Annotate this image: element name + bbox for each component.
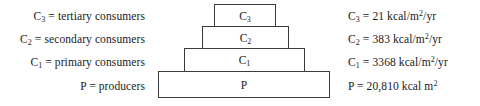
value-row-primary-consumers: C1 = 3368 kcal/m2/yr xyxy=(348,57,448,69)
pyramid-tier-label-c2: C2 xyxy=(240,32,252,44)
value-tail-c1: /yr xyxy=(435,56,448,68)
values-column: C3 = 21 kcal/m2/yr C2 = 383 kcal/m2/yr C… xyxy=(340,0,480,106)
pyramid-tier-label-c1: C1 xyxy=(239,54,251,66)
value-superscript-p: 2 xyxy=(433,79,437,88)
value-symbol-c3: C xyxy=(348,10,356,22)
pyramid-tier-label-c3: C3 xyxy=(239,10,251,22)
pyramid-tier-tertiary-consumers: C3 xyxy=(214,4,276,27)
pyramid-tier-subscript-c2: 2 xyxy=(247,37,251,46)
value-text-c3: = 21 kcal/m xyxy=(360,10,419,22)
value-tail-c2: /yr xyxy=(429,33,442,45)
value-symbol-c2: C xyxy=(348,33,356,45)
value-tail-c3: /yr xyxy=(423,10,436,22)
value-text-p: = 20,810 kcal m xyxy=(354,80,433,92)
value-text-c1: = 3368 kcal/m xyxy=(360,56,431,68)
pyramid-tier-producers: P xyxy=(158,71,330,98)
value-row-secondary-consumers: C2 = 383 kcal/m2/yr xyxy=(348,34,442,46)
pyramid-tier-subscript-c3: 3 xyxy=(247,15,251,24)
value-text-c2: = 383 kcal/m xyxy=(360,33,425,45)
value-row-tertiary-consumers: C3 = 21 kcal/m2/yr xyxy=(348,11,436,23)
pyramid-tier-secondary-consumers: C2 xyxy=(202,26,289,49)
value-row-producers: P = 20,810 kcal m2 xyxy=(348,81,438,93)
pyramid-tier-primary-consumers: C1 xyxy=(184,48,305,72)
value-symbol-c1: C xyxy=(348,56,356,68)
pyramid-tier-subscript-c1: 1 xyxy=(246,59,250,68)
pyramid-tier-label-p: P xyxy=(241,79,247,91)
energy-pyramid-figure: C3 = tertiary consumers C2 = secondary c… xyxy=(0,0,480,106)
